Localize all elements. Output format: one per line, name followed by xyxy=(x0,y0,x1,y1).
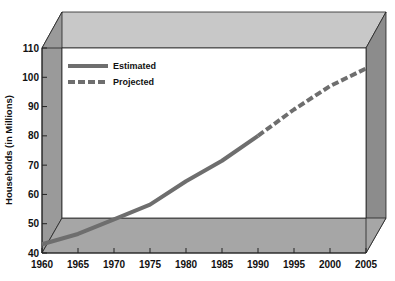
y-tick-label: 60 xyxy=(28,189,40,200)
legend-label-projected: Projected xyxy=(113,77,154,87)
x-tick-label: 1985 xyxy=(211,259,234,270)
y-tick-label: 70 xyxy=(28,160,40,171)
x-tick-label: 1965 xyxy=(67,259,90,270)
y-axis-label: Households (in Millions) xyxy=(3,95,14,205)
x-tick-label: 1995 xyxy=(283,259,306,270)
x-tick-label: 1970 xyxy=(103,259,126,270)
line-chart: 405060708090100110 196019651970197519801… xyxy=(0,0,395,281)
y-tick-label: 40 xyxy=(28,248,40,259)
box-top-face xyxy=(42,12,386,48)
box-right-face xyxy=(366,12,386,253)
x-tick-label: 2005 xyxy=(355,259,378,270)
plot-area xyxy=(62,48,366,218)
legend-label-estimated: Estimated xyxy=(113,61,156,71)
x-tick-label: 1975 xyxy=(139,259,162,270)
y-tick-label: 50 xyxy=(28,218,40,229)
y-tick-label: 100 xyxy=(22,72,39,83)
x-tick-label: 1960 xyxy=(31,259,54,270)
y-tick-label: 90 xyxy=(28,101,40,112)
y-tick-label: 110 xyxy=(23,43,40,54)
x-tick-label: 1980 xyxy=(175,259,198,270)
x-tick-label: 2000 xyxy=(319,259,342,270)
y-tick-label: 80 xyxy=(28,130,40,141)
box-bottom-face xyxy=(42,218,386,253)
x-tick-label: 1990 xyxy=(247,259,270,270)
